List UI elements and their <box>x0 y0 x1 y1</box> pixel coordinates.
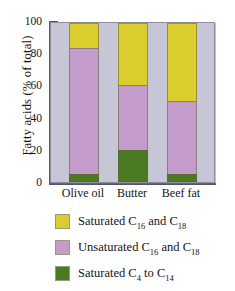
y-axis-tick-labels: 020406080100 <box>8 0 42 291</box>
y-axis-tick-label: 40 <box>14 113 42 125</box>
legend-swatch-saturated-c4-c14 <box>55 266 70 281</box>
bars-container <box>51 23 214 182</box>
bar-segment[interactable] <box>69 48 99 175</box>
plot-area <box>50 22 215 183</box>
stacked-bar-chart-figure: Fatty acids (% of total) 020406080100 Ol… <box>0 0 235 291</box>
legend-item[interactable]: Saturated C16 and C18 <box>55 208 235 234</box>
bar-butter[interactable] <box>118 21 148 182</box>
bar-segment[interactable] <box>69 23 99 49</box>
bar-segment[interactable] <box>118 85 148 151</box>
legend-swatch-unsaturated-c16-c18 <box>55 240 70 255</box>
chart-legend: Saturated C16 and C18Unsaturated C16 and… <box>55 208 235 286</box>
bar-segment[interactable] <box>118 23 148 86</box>
bar-segment[interactable] <box>167 174 197 182</box>
legend-item[interactable]: Saturated C4 to C14 <box>55 260 235 286</box>
y-axis-tick-label: 0 <box>14 177 42 189</box>
legend-item-label: Saturated C4 to C14 <box>78 266 174 280</box>
x-axis-tick-labels: Olive oilButterBeef fat <box>50 186 220 202</box>
y-axis-tick-label: 20 <box>14 145 42 157</box>
legend-swatch-saturated-c16-c18 <box>55 214 70 229</box>
y-axis-tick-label: 80 <box>14 48 42 60</box>
bar-segment[interactable] <box>118 150 148 182</box>
legend-item-label: Saturated C16 and C18 <box>78 214 186 228</box>
bar-segment[interactable] <box>167 23 197 102</box>
bar-segment[interactable] <box>167 101 197 175</box>
legend-item[interactable]: Unsaturated C16 and C18 <box>55 234 235 260</box>
legend-item-label: Unsaturated C16 and C18 <box>78 240 200 254</box>
y-axis-tick-label: 60 <box>14 80 42 92</box>
bar-segment[interactable] <box>69 174 99 182</box>
bar-beef-fat[interactable] <box>167 21 197 182</box>
x-axis-tick-label-beef-fat: Beef fat <box>146 186 216 200</box>
y-axis-tick-label: 100 <box>14 16 42 28</box>
x-axis-line <box>49 183 216 185</box>
bar-olive-oil[interactable] <box>69 21 99 182</box>
